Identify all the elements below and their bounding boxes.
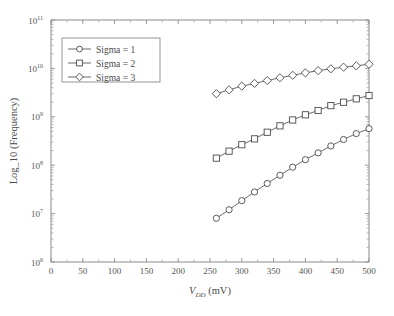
marker-diamond (352, 62, 360, 70)
y-tick-label: 1010 (28, 63, 43, 74)
series-2 (213, 92, 372, 161)
marker-circle (251, 189, 257, 195)
marker-circle (213, 215, 219, 221)
marker-circle (264, 180, 270, 186)
y-axis-title: Log_10 (Frequency) (8, 97, 20, 184)
legend-label: Sigma = 1 (96, 45, 135, 55)
marker-circle (77, 46, 83, 52)
marker-diamond (314, 67, 322, 75)
marker-circle (290, 164, 296, 170)
marker-diamond (301, 69, 309, 77)
y-tick-label: 107 (31, 208, 43, 219)
marker-diamond (339, 63, 347, 71)
marker-square (302, 112, 308, 118)
x-tick-label: 500 (362, 266, 376, 276)
marker-diamond (327, 65, 335, 73)
series-3 (212, 60, 373, 98)
marker-diamond (225, 86, 233, 94)
x-tick-label: 0 (49, 266, 54, 276)
x-tick-label: 350 (267, 266, 281, 276)
x-tick-label: 150 (140, 266, 154, 276)
series-1 (213, 126, 372, 222)
marker-square (264, 129, 270, 135)
x-tick-label: 200 (171, 266, 185, 276)
marker-circle (302, 157, 308, 163)
marker-circle (328, 143, 334, 149)
marker-circle (226, 207, 232, 213)
marker-square (366, 92, 372, 98)
marker-square (251, 136, 257, 142)
x-axis-title: VDD (mV) (189, 285, 231, 299)
marker-circle (353, 130, 359, 136)
marker-square (77, 60, 83, 66)
marker-square (226, 148, 232, 154)
marker-square (290, 117, 296, 123)
marker-diamond (289, 71, 297, 79)
marker-square (340, 99, 346, 105)
marker-square (315, 107, 321, 113)
marker-diamond (212, 90, 220, 98)
marker-diamond (238, 82, 246, 90)
marker-square (328, 103, 334, 109)
marker-diamond (365, 60, 373, 68)
legend-label: Sigma = 3 (96, 73, 135, 83)
x-tick-label: 300 (235, 266, 249, 276)
legend-label: Sigma = 2 (96, 59, 135, 69)
marker-diamond (263, 76, 271, 84)
x-tick-label: 400 (299, 266, 313, 276)
x-tick-label: 250 (203, 266, 217, 276)
y-tick-label: 1011 (28, 15, 43, 26)
chart-legend: Sigma = 1Sigma = 2Sigma = 3 (62, 38, 160, 83)
marker-square (277, 123, 283, 129)
x-tick-label: 100 (108, 266, 122, 276)
marker-circle (340, 136, 346, 142)
figure-container: 0501001502002503003504004505001061071081… (0, 0, 394, 316)
marker-square (353, 96, 359, 102)
x-tick-label: 450 (330, 266, 344, 276)
marker-square (239, 142, 245, 148)
marker-square (213, 155, 219, 161)
y-tick-label: 109 (31, 111, 43, 122)
x-tick-label: 50 (78, 266, 88, 276)
marker-diamond (250, 79, 258, 87)
marker-circle (277, 172, 283, 178)
y-tick-label: 108 (31, 160, 43, 171)
marker-circle (239, 198, 245, 204)
marker-circle (315, 150, 321, 156)
marker-circle (366, 126, 372, 132)
y-tick-label: 106 (31, 257, 43, 268)
chart-plot: 0501001502002503003504004505001061071081… (0, 0, 394, 316)
marker-diamond (276, 74, 284, 82)
